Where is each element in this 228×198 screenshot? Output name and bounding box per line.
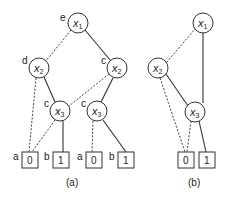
terminal-a-1-right: 1 b [109, 151, 134, 168]
edge-a-x2right-x3right [101, 78, 113, 102]
edge-a-x1-x2right [85, 30, 111, 61]
svg-text:1: 1 [204, 155, 210, 166]
edge-b-x1-x2 [166, 28, 196, 63]
edge-b-x2-x3 [166, 74, 188, 106]
edge-a-x2left-t0 [29, 78, 36, 152]
svg-text:0: 0 [183, 155, 189, 166]
edge-a-x2right-x3left [69, 74, 109, 106]
terminal-b-0: 0 [178, 152, 194, 168]
terminal-b-1: 1 [199, 152, 215, 168]
terminal-a-1-left: 1 b [44, 151, 69, 168]
svg-text:b: b [44, 151, 50, 162]
terminal-a-0-left: 0 a [13, 151, 38, 168]
svg-text:a: a [77, 151, 83, 162]
node-b-x2: x2 [148, 58, 168, 78]
node-a-x3-right-label: c [81, 98, 86, 109]
edge-b-x3-t0 [187, 121, 191, 152]
edge-a-x1-x2left [46, 30, 71, 61]
svg-text:1: 1 [58, 155, 64, 166]
edge-a-x3right-t1 [103, 120, 126, 152]
panel-b-edges [160, 28, 206, 152]
node-a-x2-right: x2 c [101, 55, 127, 78]
node-a-x1-label: e [60, 12, 66, 23]
node-a-x3-right: x3 c [81, 98, 107, 121]
node-a-x2-left: x2 d [22, 55, 49, 78]
edge-b-x3-t1 [199, 121, 206, 152]
node-a-x3-left-label: c [44, 98, 49, 109]
edge-b-x2-t0 [160, 78, 185, 152]
caption-b: (b) [188, 177, 200, 188]
svg-text:0: 0 [27, 155, 33, 166]
node-b-x1: x1 [193, 13, 213, 33]
node-a-x2-left-label: d [22, 55, 28, 66]
edge-a-x3right-t0 [92, 121, 93, 152]
caption-a: (a) [66, 177, 78, 188]
bdd-diagram: x1 e x2 d x2 c x3 c x3 c 0 a 1 b 0 a 1 b [0, 0, 228, 198]
terminal-a-0-right: 0 a [77, 151, 102, 168]
node-b-x3: x3 [185, 102, 205, 122]
svg-text:a: a [13, 151, 19, 162]
svg-text:0: 0 [91, 155, 97, 166]
node-a-x1: x1 e [60, 12, 88, 33]
svg-text:b: b [109, 151, 115, 162]
node-a-x3-left: x3 c [44, 98, 70, 121]
node-a-x2-right-label: c [101, 55, 106, 66]
svg-text:1: 1 [123, 155, 129, 166]
edge-a-x3left-t0 [32, 120, 55, 152]
panel-a-edges [29, 30, 126, 152]
